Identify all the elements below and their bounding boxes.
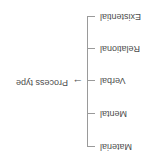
axis-tick-verbal bbox=[87, 80, 95, 81]
axis-label-material: Material bbox=[100, 142, 153, 151]
annotation-caption: Process type bbox=[16, 78, 68, 87]
axis-label-existential: Existential bbox=[100, 12, 153, 21]
axis-tick-mental bbox=[87, 113, 95, 114]
axis-tick-existential bbox=[87, 16, 95, 17]
axis-spine bbox=[87, 16, 88, 147]
axis-label-relational: Relational bbox=[100, 44, 153, 53]
axis-label-mental: Mental bbox=[100, 109, 153, 118]
process-type-axis-figure: Material Mental Verbal Relational Existe… bbox=[0, 0, 153, 158]
axis-tick-relational bbox=[87, 48, 95, 49]
arrow-right-icon: → bbox=[72, 77, 83, 88]
process-type-annotation: → Process type bbox=[16, 77, 83, 88]
axis-label-verbal: Verbal bbox=[100, 76, 153, 85]
axis-tick-material bbox=[87, 146, 95, 147]
